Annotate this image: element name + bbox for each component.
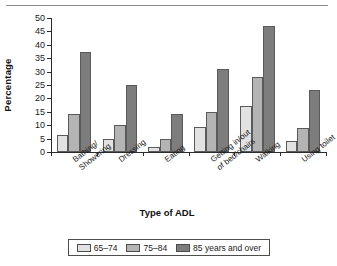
x-axis-title: Type of ADL [0, 207, 334, 218]
bar[interactable] [297, 128, 309, 152]
x-axis-tick [326, 152, 327, 156]
y-axis-line [51, 18, 52, 152]
x-axis-tick [51, 152, 52, 156]
y-axis-title: Percentage [2, 18, 14, 152]
y-axis-tick-label: 45 [35, 27, 45, 36]
bar[interactable] [206, 112, 218, 152]
legend-label: 85 years and over [193, 243, 261, 253]
legend-item[interactable]: 65–74 [77, 243, 118, 253]
y-axis-tick-label: 35 [35, 54, 45, 63]
x-axis-tick [143, 152, 144, 156]
bar[interactable] [217, 69, 229, 152]
y-axis-tick-label: 15 [35, 107, 45, 116]
legend-swatch-icon [77, 244, 91, 252]
y-axis-tick [47, 98, 51, 99]
bar[interactable] [68, 114, 80, 152]
y-axis-tick [47, 18, 51, 19]
legend-label: 65–74 [94, 243, 118, 253]
chart-legend: 65–7475–8485 years and over [68, 239, 270, 256]
bar-group [286, 18, 321, 152]
y-axis-tick-label: 20 [35, 94, 45, 103]
x-axis-tick [189, 152, 190, 156]
bar-group [148, 18, 183, 152]
bar[interactable] [286, 141, 298, 152]
bar[interactable] [160, 139, 172, 152]
plot-area: 05101520253035404550 [51, 18, 326, 152]
bar[interactable] [114, 125, 126, 152]
legend-item[interactable]: 75–84 [126, 243, 167, 253]
y-axis-tick-label: 30 [35, 67, 45, 76]
y-axis-tick [47, 125, 51, 126]
legend-swatch-icon [176, 244, 190, 252]
y-axis-tick [47, 45, 51, 46]
y-axis-tick [47, 139, 51, 140]
y-axis-tick [47, 72, 51, 73]
y-axis-tick-label: 10 [35, 121, 45, 130]
bar-group [57, 18, 92, 152]
bar[interactable] [80, 52, 92, 153]
y-axis-tick-label: 25 [35, 81, 45, 90]
bar-group [103, 18, 138, 152]
y-axis-tick [47, 58, 51, 59]
y-axis-tick-label: 0 [40, 148, 45, 157]
y-axis-tick [47, 31, 51, 32]
bar-group [194, 18, 229, 152]
bar[interactable] [148, 147, 160, 152]
x-axis-tick [280, 152, 281, 156]
bar[interactable] [57, 135, 69, 152]
legend-swatch-icon [126, 244, 140, 252]
y-axis-tick-label: 50 [35, 14, 45, 23]
y-axis-tick-label: 40 [35, 40, 45, 49]
bar[interactable] [263, 26, 275, 152]
y-axis-tick-label: 5 [40, 134, 45, 143]
legend-item[interactable]: 85 years and over [176, 243, 261, 253]
top-divider [6, 5, 328, 6]
bar[interactable] [194, 127, 206, 152]
legend-label: 75–84 [143, 243, 167, 253]
y-axis-tick [47, 85, 51, 86]
y-axis-tick [47, 112, 51, 113]
